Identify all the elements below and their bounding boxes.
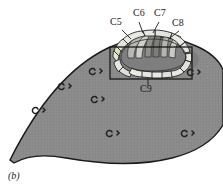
panel-label: (b) [8,170,20,181]
label-c5: C5 [110,17,122,27]
figure-panel-b: C5 C6 C7 C8 C9 (b) [0,0,223,189]
anatomical-diagram-svg [0,0,223,189]
label-c8: C8 [172,18,184,28]
label-c6: C6 [133,8,145,18]
label-c7: C7 [154,8,166,18]
label-c9: C9 [140,84,152,94]
